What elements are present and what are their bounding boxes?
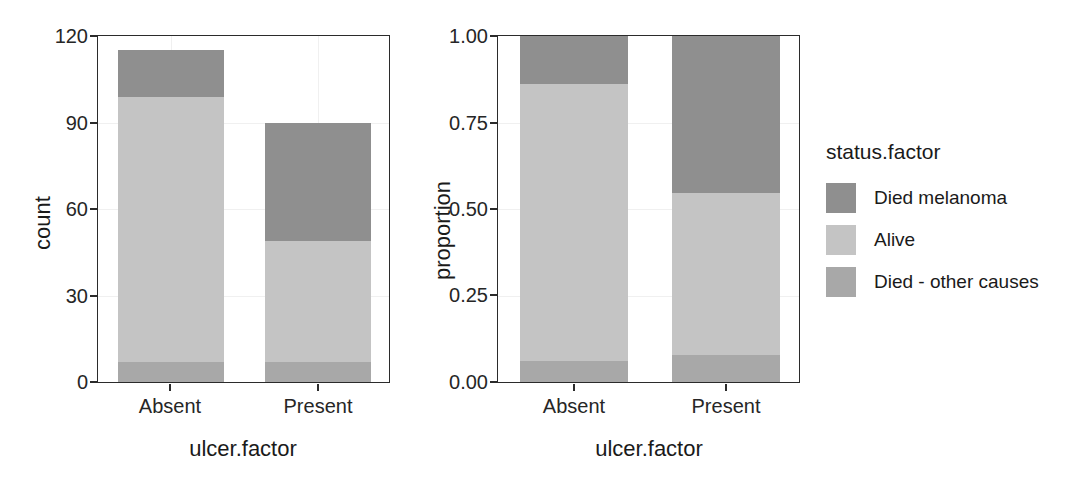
- proportion-panel-ytick-label-0: 0.00: [408, 372, 488, 392]
- count-panel-ytick-label-1: 30: [44, 286, 88, 306]
- count-panel-ytick-mark-1: [90, 295, 97, 297]
- count-panel-xtick-mark-1: [317, 384, 319, 391]
- bar-segment-died-melanoma[interactable]: [672, 36, 780, 193]
- count-panel-ytick-mark-3: [90, 122, 97, 124]
- proportion-panel-xtick-mark-1: [725, 384, 727, 391]
- proportion-panel-ytick-label-4: 1.00: [408, 26, 488, 46]
- bar-segment-alive[interactable]: [265, 241, 371, 362]
- legend-item-alive[interactable]: Alive: [826, 220, 1058, 260]
- count-panel-ytick-label-0: 0: [44, 372, 88, 392]
- proportion-panel-ytick-mark-4: [490, 35, 497, 37]
- proportion-panel-xtick-label-absent: Absent: [514, 396, 634, 416]
- legend-swatch-died-other-causes: [826, 267, 856, 297]
- proportion-panel-ytick-mark-1: [490, 294, 497, 296]
- legend-label-died-melanoma: Died melanoma: [874, 187, 1007, 209]
- bar-segment-died-other-causes[interactable]: [265, 362, 371, 382]
- bar-segment-alive[interactable]: [520, 84, 628, 361]
- proportion-panel-ytick-mark-2: [490, 208, 497, 210]
- count-panel-xtick-mark-0: [169, 384, 171, 391]
- legend-label-died-other-causes: Died - other causes: [874, 271, 1039, 293]
- legend-swatch-died-melanoma: [826, 183, 856, 213]
- count-panel-xtick-label-present: Present: [258, 396, 378, 416]
- count-panel-xtick-label-absent: Absent: [110, 396, 230, 416]
- bar-segment-died-other-causes[interactable]: [118, 362, 224, 382]
- bar-segment-died-melanoma[interactable]: [265, 123, 371, 241]
- bar-present[interactable]: [672, 36, 780, 382]
- count-panel-ytick-label-3: 90: [44, 113, 88, 133]
- proportion-panel-xtick-label-present: Present: [666, 396, 786, 416]
- proportion-panel-ytick-mark-0: [490, 381, 497, 383]
- bar-segment-died-melanoma[interactable]: [520, 36, 628, 84]
- count-panel-ytick-label-2: 60: [44, 199, 88, 219]
- count-panel-ytick-mark-4: [90, 35, 97, 37]
- proportion-panel-ytick-label-2: 0.50: [408, 199, 488, 219]
- bar-segment-died-melanoma[interactable]: [118, 50, 224, 96]
- proportion-panel-ytick-mark-3: [490, 122, 497, 124]
- proportion-panel-plot-area: [497, 35, 800, 383]
- bar-absent[interactable]: [118, 50, 224, 382]
- count-panel-ytick-label-4: 120: [34, 26, 88, 46]
- bar-absent[interactable]: [520, 36, 628, 382]
- legend-swatch-alive: [826, 225, 856, 255]
- proportion-panel-x-axis-title: ulcer.factor: [549, 436, 749, 462]
- count-panel-ytick-mark-2: [90, 208, 97, 210]
- bar-segment-alive[interactable]: [672, 193, 780, 355]
- proportion-panel-ytick-label-1: 0.25: [408, 285, 488, 305]
- bar-segment-died-other-causes[interactable]: [520, 361, 628, 382]
- proportion-panel-xtick-mark-0: [573, 384, 575, 391]
- legend-label-alive: Alive: [874, 229, 915, 251]
- count-panel-x-axis-title: ulcer.factor: [143, 436, 343, 462]
- legend-item-died-other-causes[interactable]: Died - other causes: [826, 262, 1058, 302]
- bar-segment-died-other-causes[interactable]: [672, 355, 780, 382]
- proportion-panel-y-axis-title: proportion: [430, 181, 456, 280]
- chart-figure: count 0 30 60 90 120: [0, 0, 1066, 481]
- legend-title: status.factor: [826, 140, 1058, 164]
- proportion-panel-ytick-label-3: 0.75: [408, 113, 488, 133]
- bar-segment-alive[interactable]: [118, 97, 224, 362]
- count-panel-ytick-mark-0: [90, 381, 97, 383]
- legend: status.factor Died melanoma Alive Died -…: [826, 140, 1058, 304]
- legend-item-died-melanoma[interactable]: Died melanoma: [826, 178, 1058, 218]
- count-panel-plot-area: [97, 35, 390, 383]
- bar-present[interactable]: [265, 123, 371, 383]
